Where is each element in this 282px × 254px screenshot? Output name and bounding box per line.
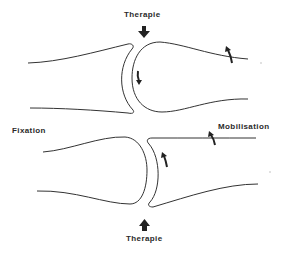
glide-arrow-upper-icon <box>136 71 142 85</box>
mobilisation-label: Mobilisation <box>218 122 269 131</box>
roll-arrow-upper-icon <box>225 46 232 63</box>
lower-right-bone <box>147 138 258 207</box>
upper-right-bone <box>132 42 248 112</box>
upper-left-bone <box>28 44 134 114</box>
therapy-label-top: Therapie <box>124 10 161 19</box>
glide-arrow-lower-icon <box>161 152 167 167</box>
lower-left-bone <box>37 137 147 204</box>
therapy-arrow-up-icon <box>139 219 150 231</box>
therapy-label-bottom: Therapie <box>126 234 163 243</box>
fixation-label: Fixation <box>12 126 46 135</box>
therapy-arrow-down-icon <box>138 26 150 38</box>
